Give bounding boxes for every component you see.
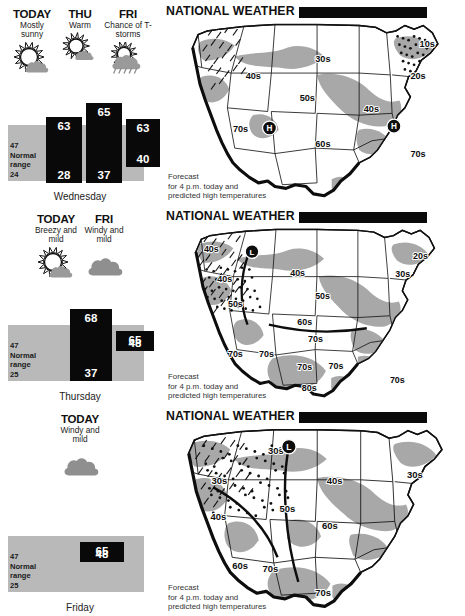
temp-bar: 63 40 (126, 119, 160, 167)
normal-range-label: 47 Normal range 24 (10, 141, 44, 179)
map-temp-label: 50s (300, 93, 315, 103)
panel-day-label: Friday (0, 602, 160, 613)
map-temp-label: 30s (315, 54, 330, 64)
low-temp: 48 (116, 337, 154, 349)
map-temp-label: 20s (413, 251, 428, 261)
map-temp-label: 50s (228, 299, 243, 309)
caption-line-2: for 4 p.m. today and (168, 593, 266, 603)
normal-word-1: Normal (10, 151, 44, 160)
local-forecast: TODAY Windy and mild 47 Normal range 25 … (0, 405, 160, 616)
map-temp-label: 70s (259, 349, 274, 359)
sun-cloud-rain-icon (104, 42, 152, 76)
map-temp-label: 40s (364, 104, 379, 114)
title-rule (299, 412, 427, 423)
day-condition: Windy and mild (80, 226, 128, 245)
day-column: FRI Windy and mild (80, 213, 128, 281)
map-temp-label: 10s (420, 39, 435, 49)
panel-day-label: Thursday (0, 391, 160, 402)
day-column: THU Warm (56, 8, 104, 76)
normal-range-label: 47 Normal range 25 (10, 552, 44, 590)
map-temp-label: 70s (262, 563, 278, 574)
map-temp-label: 70s (297, 362, 312, 372)
temperature-chart: 47 Normal range 25 68 37 65 48 (0, 295, 160, 381)
map-temp-label: 40s (246, 71, 261, 81)
map-temp-label: 30s (395, 269, 410, 279)
map-temp-label: 70s (315, 587, 331, 598)
map-temp-label: 60s (297, 317, 312, 327)
normal-word-2: range (10, 160, 44, 169)
temp-bar: 65 48 (80, 542, 124, 562)
temp-bar: 65 37 (86, 103, 122, 183)
normal-high: 47 (10, 341, 44, 350)
svg-text:L: L (286, 442, 291, 452)
normal-word-1: Normal (10, 351, 44, 360)
caption-line-3: predicted high temperatures (168, 191, 266, 201)
local-forecast: TODAY Mostly sunny THU Warm FRI Chance o… (0, 0, 160, 205)
map-title: NATIONAL WEATHER (166, 209, 295, 223)
title-rule (299, 212, 427, 223)
map-temp-label: 80s (302, 383, 317, 393)
forecast-panel: TODAY Windy and mild 47 Normal range 25 … (0, 405, 465, 616)
pressure-marker-l: L (282, 440, 296, 454)
normal-low: 25 (10, 581, 44, 590)
day-name: FRI (80, 213, 128, 225)
day-name: TODAY (8, 8, 56, 20)
pressure-marker-l: L (245, 245, 259, 259)
day-columns: TODAY Windy and mild (0, 413, 160, 481)
forecast-panel: TODAY Mostly sunny THU Warm FRI Chance o… (0, 0, 465, 205)
sun-cloud-icon (8, 42, 56, 76)
map-caption: Forecast for 4 p.m. today and predicted … (168, 172, 266, 201)
sun-cloud-icon (32, 247, 80, 281)
map-caption: Forecast for 4 p.m. today and predicted … (168, 583, 266, 612)
caption-line-1: Forecast (168, 172, 266, 182)
day-condition: Warm (56, 21, 104, 30)
high-temp: 65 (86, 106, 122, 118)
national-weather-section: NATIONAL WEATHER 30s30s40s30s50s40s60s60… (160, 405, 465, 616)
map-temp-label: 50s (315, 291, 330, 301)
low-temp: 48 (80, 548, 124, 560)
day-name: TODAY (32, 213, 80, 225)
day-condition: Mostly sunny (8, 21, 56, 40)
normal-high: 47 (10, 141, 44, 150)
day-condition: Chance of T-storms (104, 21, 152, 40)
high-temp: 63 (46, 120, 82, 132)
temperature-chart: 47 Normal range 24 63 28 65 37 63 40 (0, 95, 160, 181)
map-temp-label: 50s (279, 503, 295, 514)
svg-text:H: H (267, 124, 273, 133)
map-title: NATIONAL WEATHER (166, 409, 295, 423)
map-temp-label: 40s (210, 511, 226, 522)
svg-text:H: H (391, 122, 397, 131)
caption-line-2: for 4 p.m. today and (168, 382, 266, 392)
normal-low: 25 (10, 370, 44, 379)
day-name: THU (56, 8, 104, 20)
normal-word-2: range (10, 571, 44, 580)
day-condition: Windy and mild (56, 426, 104, 445)
low-temp: 40 (126, 153, 160, 165)
temp-bar: 68 37 (70, 309, 112, 381)
map-title: NATIONAL WEATHER (166, 4, 295, 18)
cloud-icon (80, 247, 128, 281)
day-condition: Breezy and mild (32, 226, 80, 245)
low-temp: 37 (70, 367, 112, 379)
low-temp: 28 (46, 169, 82, 181)
map-temp-label: 30s (407, 469, 423, 480)
temp-bar: 63 28 (46, 117, 82, 183)
high-temp: 63 (126, 122, 160, 134)
map-temp-label: 60s (315, 139, 330, 149)
map-temp-label: 40s (204, 244, 219, 254)
low-temp: 37 (86, 169, 122, 181)
day-column: TODAY Breezy and mild (32, 213, 80, 281)
local-forecast: TODAY Breezy and mild FRI Windy and mild… (0, 205, 160, 405)
map-temp-label: 40s (327, 475, 343, 486)
caption-line-1: Forecast (168, 372, 266, 382)
panel-day-label: Wednesday (0, 191, 160, 202)
map-temp-label: 70s (228, 349, 243, 359)
normal-range-label: 47 Normal range 25 (10, 341, 44, 379)
day-name: FRI (104, 8, 152, 20)
title-rule (299, 7, 427, 18)
normal-word-1: Normal (10, 562, 44, 571)
pressure-marker-h: H (387, 119, 401, 133)
day-column: TODAY Windy and mild (56, 413, 104, 481)
pressure-marker-h: H (263, 121, 277, 135)
national-weather-section: NATIONAL WEATHER 40s40s50s40s50s60s70s70… (160, 205, 465, 405)
